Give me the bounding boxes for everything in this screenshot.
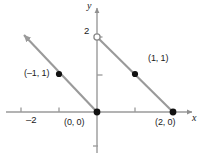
point-label-2-0: (2, 0) [155, 117, 175, 127]
point-0-0 [94, 109, 101, 116]
y-tick-label-2: 2 [84, 26, 89, 36]
coordinate-plane-svg [0, 0, 203, 159]
y-axis-label: y [87, 1, 91, 11]
point-2-0 [170, 109, 177, 116]
point-label-origin: (0, 0) [64, 117, 84, 127]
x-tick-label-neg2: –2 [26, 115, 36, 125]
point-neg1-1 [56, 71, 62, 77]
open-point-0-2 [94, 34, 100, 40]
point-1-1 [132, 71, 138, 77]
graph-figure: y x 2 –2 (–1, 1) (0, 0) (1, 1) (2, 0) [0, 0, 203, 159]
point-label-neg1-1: (–1, 1) [24, 68, 49, 78]
x-axis-label: x [192, 113, 196, 123]
point-label-1-1: (1, 1) [148, 53, 168, 63]
